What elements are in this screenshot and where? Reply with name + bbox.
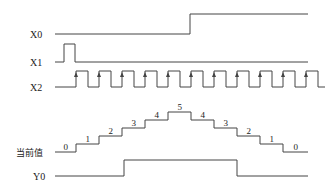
rising-edge-arrow-icon [212,72,216,77]
current-value-label: 4 [201,110,206,120]
signal-label-x1: X1 [30,57,42,68]
rising-edge-arrow-icon [304,72,308,77]
current-value-label: 3 [132,118,137,128]
waveform-y0 [55,160,308,176]
current-value-label: 4 [155,110,160,120]
rising-edge-arrow-icon [120,72,124,77]
signal-label-current-value: 当前值 [16,147,43,158]
signal-label-y0: Y0 [33,171,45,182]
signal-label-x0: X0 [30,29,42,40]
rising-edge-arrow-icon [143,72,147,77]
waveform-current-value [55,112,308,152]
current-value-label: 0 [64,142,69,152]
current-value-label: 5 [178,102,183,112]
current-value-label: 3 [224,118,229,128]
current-value-label: 1 [86,134,91,144]
rising-edge-arrow-icon [74,72,78,77]
rising-edge-arrow-icon [97,72,101,77]
rising-edge-arrow-icon [235,72,239,77]
rising-edge-arrow-icon [166,72,170,77]
signal-label-x2: X2 [30,82,42,93]
rising-edge-arrow-icon [281,72,285,77]
current-value-label: 2 [109,126,114,136]
waveform-x1 [55,44,308,62]
current-value-label: 1 [270,134,275,144]
rising-edge-arrow-icon [258,72,262,77]
current-value-label: 0 [294,142,299,152]
timing-diagram: X0 X1 X2 当前值 Y0 01234543210 [0,0,326,195]
waveform-x0 [55,14,308,34]
current-value-label: 2 [247,126,252,136]
waveform-x2 [55,71,325,87]
rising-edge-arrow-icon [189,72,193,77]
